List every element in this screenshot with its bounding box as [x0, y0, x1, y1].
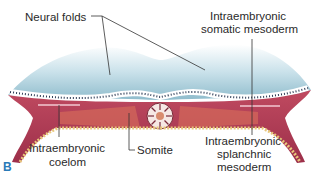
label-splanchnic-line2: splanchnic	[217, 148, 271, 161]
label-neural-folds: Neural folds	[25, 11, 86, 24]
ectoderm-layer	[8, 45, 311, 100]
somite	[147, 103, 173, 129]
label-splanchnic-line3: mesoderm	[217, 161, 271, 174]
label-coelom-line1: Intraembryonic	[29, 142, 105, 155]
label-splanchnic-line1: Intraembryonic	[205, 135, 281, 148]
label-coelom-line2: coelom	[49, 156, 86, 169]
label-somite: Somite	[137, 144, 173, 157]
label-somatic-line1: Intraembryonic	[210, 10, 286, 23]
label-somatic-line2: somatic mesoderm	[201, 23, 298, 36]
panel-letter: B	[3, 160, 12, 174]
